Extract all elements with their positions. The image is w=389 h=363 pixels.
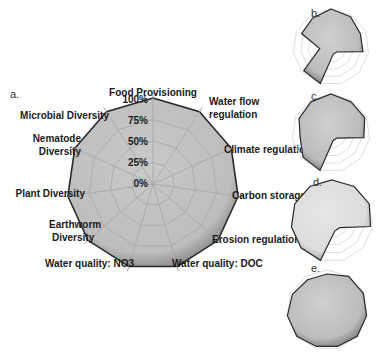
panel-label-a: a. bbox=[10, 88, 19, 100]
radar-panel-a: 0%25%50%75%100%Food ProvisioningWater fl… bbox=[16, 87, 312, 271]
panel-label-d: d. bbox=[313, 176, 322, 188]
radar-data-polygon bbox=[299, 94, 365, 170]
radial-tick-label: 25% bbox=[128, 157, 148, 168]
axis-label: Earthworm bbox=[49, 219, 101, 230]
radar-panel-c bbox=[292, 94, 369, 170]
panel-label-b: b. bbox=[311, 7, 320, 19]
radar-data-polygon bbox=[287, 274, 366, 346]
radial-tick-label: 50% bbox=[128, 136, 148, 147]
axis-label: Diversity bbox=[39, 146, 82, 157]
radar-data-polygon bbox=[302, 9, 363, 83]
axis-label: Water quality: DOC bbox=[172, 258, 263, 269]
radar-chart-figure: 0%25%50%75%100%Food ProvisioningWater fl… bbox=[0, 0, 389, 363]
axis-label: Plant Diversity bbox=[16, 188, 86, 199]
radial-tick-label: 75% bbox=[128, 115, 148, 126]
axis-label: Water quality: NO3 bbox=[45, 258, 135, 269]
axis-label: Water flow bbox=[209, 96, 259, 107]
panel-label-c: c. bbox=[311, 90, 320, 102]
axis-label: Food Provisioning bbox=[109, 87, 197, 98]
axis-label: Erosion regulation bbox=[212, 234, 300, 245]
axis-label: regulation bbox=[209, 109, 257, 120]
axis-label: Microbial Diversity bbox=[20, 110, 109, 121]
radar-panel-b bbox=[293, 9, 368, 83]
axis-label: Carbon storage bbox=[232, 190, 306, 201]
axis-label: Diversity bbox=[52, 232, 95, 243]
panel-label-e: e. bbox=[311, 262, 320, 274]
axis-label: Climate regulation bbox=[224, 144, 311, 155]
radar-panel-e bbox=[287, 270, 366, 348]
axis-label: Nematode bbox=[33, 133, 82, 144]
radial-tick-label: 0% bbox=[134, 178, 149, 189]
